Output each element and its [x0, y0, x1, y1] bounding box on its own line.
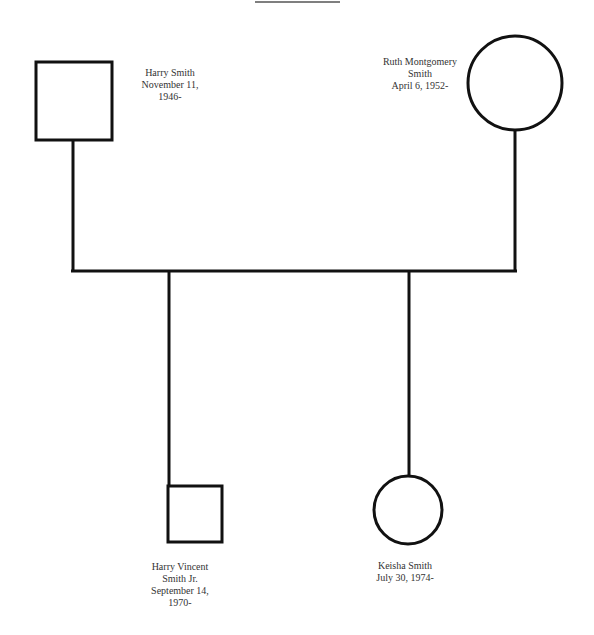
person-birthdate: September 14,	[130, 585, 230, 597]
label-keisha-smith: Keisha Smith July 30, 1974-	[360, 560, 450, 584]
person-surname: Smith Jr.	[130, 573, 230, 585]
male-symbol-harry-smith	[36, 62, 112, 140]
genogram-canvas	[0, 0, 594, 635]
person-birthdate: November 11,	[120, 79, 220, 91]
person-name: Harry Smith	[120, 67, 220, 79]
label-harry-jr: Harry Vincent Smith Jr. September 14, 19…	[130, 561, 230, 609]
person-name: Ruth Montgomery	[375, 56, 465, 68]
person-name: Harry Vincent	[130, 561, 230, 573]
female-symbol-ruth-smith	[468, 36, 562, 130]
label-ruth-smith: Ruth Montgomery Smith April 6, 1952-	[375, 56, 465, 92]
person-birthyear: 1946-	[120, 91, 220, 103]
person-birthdate: April 6, 1952-	[375, 80, 465, 92]
female-symbol-keisha	[374, 476, 442, 544]
person-birthyear: 1970-	[130, 597, 230, 609]
person-birthdate: July 30, 1974-	[360, 572, 450, 584]
male-symbol-harry-jr	[168, 486, 222, 542]
person-surname: Smith	[375, 68, 465, 80]
person-name: Keisha Smith	[360, 560, 450, 572]
label-harry-smith: Harry Smith November 11, 1946-	[120, 67, 220, 103]
